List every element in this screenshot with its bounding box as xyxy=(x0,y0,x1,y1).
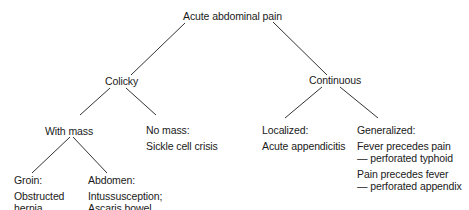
node-abdomen-detail-1: Intussusception; xyxy=(88,190,162,202)
edge-root-colicky xyxy=(131,23,185,75)
node-groin: Groin: Obstructed hernia xyxy=(14,174,64,210)
node-localized: Localized: Acute appendicitis xyxy=(262,124,345,152)
node-generalized-group2-line2: — perforated appendix xyxy=(357,180,462,192)
node-no-mass: No mass: Sickle cell crisis xyxy=(146,124,218,152)
node-no-mass-detail: Sickle cell crisis xyxy=(146,140,218,152)
node-abdomen-detail-2: Ascaris bowel xyxy=(88,202,162,210)
node-root-label: Acute abdominal pain xyxy=(183,10,282,22)
edge-continuous-localized xyxy=(285,87,322,118)
node-groin-detail-2: hernia xyxy=(14,202,64,210)
node-localized-label: Localized: xyxy=(262,124,345,136)
node-groin-label: Groin: xyxy=(14,174,64,186)
node-abdomen-label: Abdomen: xyxy=(88,174,162,186)
node-generalized: Generalized: Fever precedes pain — perfo… xyxy=(357,124,462,192)
node-generalized-label: Generalized: xyxy=(357,124,462,136)
edge-with-mass-abdomen xyxy=(73,137,107,173)
node-colicky-label: Colicky xyxy=(105,75,138,87)
node-generalized-group1-line1: Fever precedes pain xyxy=(357,140,462,152)
node-no-mass-label: No mass: xyxy=(146,124,218,136)
edge-root-continuous xyxy=(273,22,327,75)
edge-continuous-generalized xyxy=(340,87,378,118)
node-generalized-group1-line2: — perforated typhoid xyxy=(357,152,462,164)
node-generalized-group2-line1: Pain precedes fever xyxy=(357,168,462,180)
node-groin-detail-1: Obstructed xyxy=(14,190,64,202)
edge-colicky-with-mass xyxy=(80,88,110,115)
node-with-mass-label: With mass xyxy=(45,125,93,137)
edge-with-mass-groin xyxy=(32,137,70,173)
node-continuous: Continuous xyxy=(309,74,361,86)
node-abdomen: Abdomen: Intussusception; Ascaris bowel xyxy=(88,174,162,210)
node-continuous-label: Continuous xyxy=(309,74,361,86)
edge-colicky-no-mass xyxy=(126,88,156,115)
node-with-mass: With mass xyxy=(45,125,93,137)
node-colicky: Colicky xyxy=(105,75,138,87)
node-root: Acute abdominal pain xyxy=(183,10,282,22)
node-localized-detail: Acute appendicitis xyxy=(262,140,345,152)
